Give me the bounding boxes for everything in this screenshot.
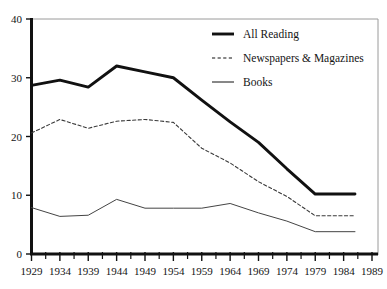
line-chart: 010203040 192919341939194419491954195919… <box>0 0 387 289</box>
y-tick-label: 10 <box>11 189 23 201</box>
x-tick-label: 1974 <box>276 265 299 277</box>
x-tick-label: 1964 <box>219 265 242 277</box>
x-tick-label: 1949 <box>134 265 157 277</box>
legend-label: Newspapers & Magazines <box>243 52 364 65</box>
y-tick-label: 20 <box>11 131 23 143</box>
y-tick-label: 0 <box>17 248 23 260</box>
x-tick-label: 1989 <box>361 265 384 277</box>
x-tick-label: 1929 <box>21 265 44 277</box>
chart-container: 010203040 192919341939194419491954195919… <box>0 0 387 289</box>
x-tick-label: 1939 <box>77 265 100 277</box>
chart-background <box>0 0 387 289</box>
y-tick-label: 40 <box>11 13 23 25</box>
legend-label: All Reading <box>243 28 299 41</box>
x-tick-label: 1984 <box>333 265 356 277</box>
legend-label: Books <box>243 76 273 88</box>
x-tick-label: 1944 <box>106 265 129 277</box>
x-tick-label: 1954 <box>162 265 185 277</box>
x-tick-label: 1979 <box>304 265 327 277</box>
y-tick-label: 30 <box>11 72 23 84</box>
x-tick-label: 1959 <box>191 265 214 277</box>
x-tick-label: 1969 <box>248 265 271 277</box>
x-tick-label: 1934 <box>49 265 72 277</box>
